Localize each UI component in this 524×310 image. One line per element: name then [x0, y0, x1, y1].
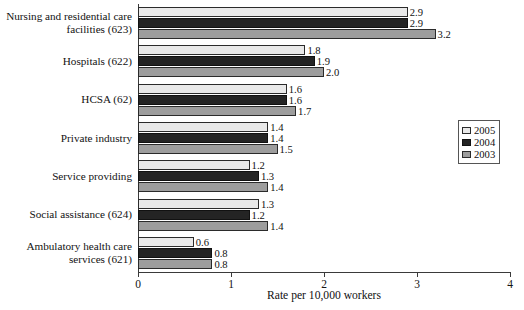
bar-value-label: 2.9 [410, 8, 423, 18]
bar-value-label: 3.2 [438, 30, 451, 40]
bar-value-label: 1.6 [289, 85, 302, 95]
legend-swatch-2005 [462, 127, 471, 134]
bar-value-label: 1.4 [270, 134, 283, 144]
bar-value-label: 1.5 [280, 145, 293, 155]
legend-label-2004: 2004 [474, 137, 495, 148]
bar-2003 [138, 106, 296, 116]
bar-2003 [138, 29, 436, 39]
bar-value-label: 0.6 [196, 238, 209, 248]
category-label: Private industry [0, 132, 132, 145]
bar-value-label: 1.4 [270, 222, 283, 232]
bar-2005 [138, 45, 305, 55]
category-axis-labels: Nursing and residential carefacilities (… [0, 0, 136, 272]
bar-2004 [138, 171, 259, 181]
bar-2005 [138, 199, 259, 209]
bar-2004 [138, 18, 408, 28]
x-tick-mark [324, 272, 325, 277]
bar-2005 [138, 84, 287, 94]
x-tick-mark [510, 272, 511, 277]
bar-value-label: 1.2 [252, 211, 265, 221]
bar-2005 [138, 7, 408, 17]
bar-value-label: 0.8 [214, 249, 227, 259]
x-tick-mark [138, 272, 139, 277]
legend-label-2005: 2005 [474, 125, 495, 136]
bar-value-label: 1.2 [252, 161, 265, 171]
legend-item-2004[interactable]: 2004 [462, 136, 495, 148]
legend-item-2005[interactable]: 2005 [462, 124, 495, 136]
legend: 2005 2004 2003 [458, 120, 500, 164]
category-label: Social assistance (624) [0, 208, 132, 221]
legend-item-2003[interactable]: 2003 [462, 148, 495, 160]
bar-value-label: 1.4 [270, 123, 283, 133]
category-label: Hospitals (622) [0, 55, 132, 68]
bar-value-label: 1.4 [270, 183, 283, 193]
bar-value-label: 1.3 [261, 200, 274, 210]
bar-2004 [138, 210, 250, 220]
bar-2003 [138, 67, 324, 77]
legend-swatch-2003 [462, 151, 471, 158]
bar-value-label: 1.7 [298, 107, 311, 117]
bar-value-label: 2.9 [410, 19, 423, 29]
x-axis-title: Rate per 10,000 workers [138, 289, 510, 302]
bar-2003 [138, 182, 268, 192]
bar-value-label: 1.9 [317, 57, 330, 67]
legend-swatch-2004 [462, 139, 471, 146]
category-label: HCSA (62) [0, 93, 132, 106]
bar-2003 [138, 144, 278, 154]
plot-area: 01234 2.92.93.21.81.92.01.61.61.71.41.41… [138, 4, 510, 272]
bar-2005 [138, 160, 250, 170]
bar-value-label: 1.8 [307, 46, 320, 56]
bar-2004 [138, 248, 212, 258]
bar-chart: Nursing and residential carefacilities (… [0, 0, 524, 310]
bar-2003 [138, 221, 268, 231]
category-label: Nursing and residential carefacilities (… [0, 10, 132, 36]
category-label: Ambulatory health careservices (621) [0, 240, 132, 266]
bar-2004 [138, 95, 287, 105]
bar-value-label: 2.0 [326, 68, 339, 78]
bar-2005 [138, 122, 268, 132]
bar-value-label: 0.8 [214, 260, 227, 270]
bar-2005 [138, 237, 194, 247]
bar-2004 [138, 56, 315, 66]
bar-2004 [138, 133, 268, 143]
bar-value-label: 1.6 [289, 96, 302, 106]
category-label: Service providing [0, 170, 132, 183]
bar-value-label: 1.3 [261, 172, 274, 182]
legend-label-2003: 2003 [474, 149, 495, 160]
bar-2003 [138, 259, 212, 269]
x-tick-mark [231, 272, 232, 277]
x-tick-mark [417, 272, 418, 277]
